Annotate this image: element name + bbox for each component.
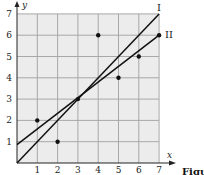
data-point: [55, 140, 59, 144]
x-axis-arrow-icon: [169, 161, 176, 166]
x-tick-label: 3: [75, 165, 81, 175]
y-tick-label: 1: [6, 137, 12, 147]
data-point: [76, 97, 80, 101]
y-tick-label: 4: [6, 73, 12, 83]
data-point: [116, 76, 120, 80]
line-label-i: I: [157, 2, 161, 13]
y-axis-label: y: [21, 0, 28, 10]
scatter-chart: 12345671234567 x y I II Figu: [0, 0, 204, 175]
y-tick-label: 5: [6, 52, 12, 62]
x-tick-label: 7: [156, 165, 162, 175]
x-tick-label: 1: [34, 165, 40, 175]
data-point: [137, 54, 141, 58]
y-tick-label: 6: [6, 30, 12, 40]
data-point: [35, 118, 39, 122]
x-tick-label: 4: [95, 165, 101, 175]
data-point: [157, 33, 161, 37]
y-tick-label: 7: [6, 9, 12, 19]
data-point: [96, 33, 100, 37]
y-tick-label: 3: [6, 94, 12, 104]
x-tick-label: 6: [136, 165, 142, 175]
y-tick-label: 2: [6, 115, 12, 125]
line-label-ii: II: [165, 29, 173, 40]
y-axis-arrow-icon: [15, 1, 20, 7]
x-tick-label: 5: [116, 165, 122, 175]
figure-caption: Figu: [182, 166, 204, 175]
x-axis-label: x: [167, 150, 172, 160]
x-tick-label: 2: [55, 165, 61, 175]
